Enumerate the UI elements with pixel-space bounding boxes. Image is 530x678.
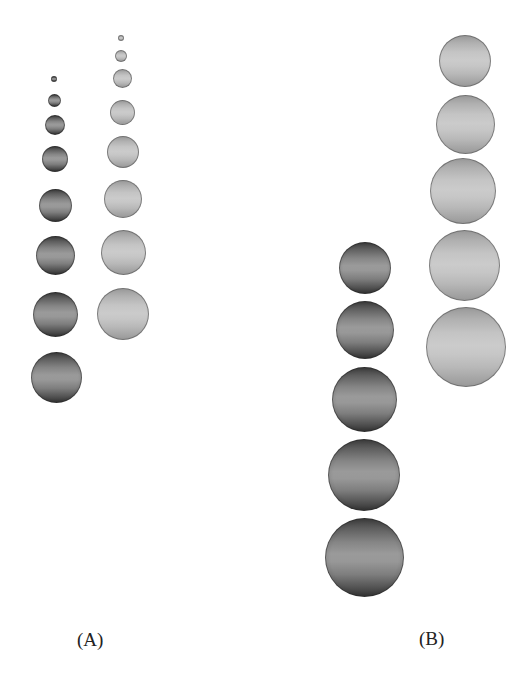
light-sphere <box>110 100 135 125</box>
dark-sphere <box>39 189 72 222</box>
dark-sphere <box>33 292 78 337</box>
light-sphere <box>113 69 132 88</box>
figure-canvas: (A) (B) <box>0 0 530 678</box>
light-sphere <box>97 288 149 340</box>
dark-sphere <box>31 352 82 403</box>
dark-sphere <box>45 115 65 135</box>
dark-sphere <box>48 94 61 107</box>
panel-b-label: (B) <box>419 629 444 648</box>
dark-sphere <box>42 146 68 172</box>
light-sphere <box>104 180 142 218</box>
dark-sphere <box>36 236 75 275</box>
light-sphere <box>101 230 146 275</box>
dark-sphere <box>51 76 57 82</box>
light-sphere <box>107 136 139 168</box>
panel-a <box>0 0 530 678</box>
light-sphere <box>118 35 124 41</box>
panel-a-label: (A) <box>77 630 103 649</box>
light-sphere <box>115 50 127 62</box>
